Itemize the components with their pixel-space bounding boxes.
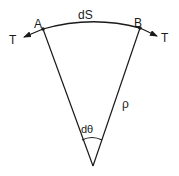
label-point-a: A xyxy=(34,17,42,31)
label-tension-left: T xyxy=(9,33,17,47)
label-arc-length: dS xyxy=(78,8,93,22)
radius-line-left xyxy=(43,29,93,166)
tension-arrow-right xyxy=(140,28,157,36)
label-radius: ρ xyxy=(122,97,129,111)
label-point-b: B xyxy=(134,16,142,30)
arc-element-diagram: A B dS T T ρ dθ xyxy=(0,0,179,176)
radius-line-right xyxy=(93,28,140,166)
label-tension-right: T xyxy=(161,31,169,45)
angle-arc xyxy=(82,138,102,141)
label-angle: dθ xyxy=(81,123,93,135)
arc-ab xyxy=(43,22,140,29)
